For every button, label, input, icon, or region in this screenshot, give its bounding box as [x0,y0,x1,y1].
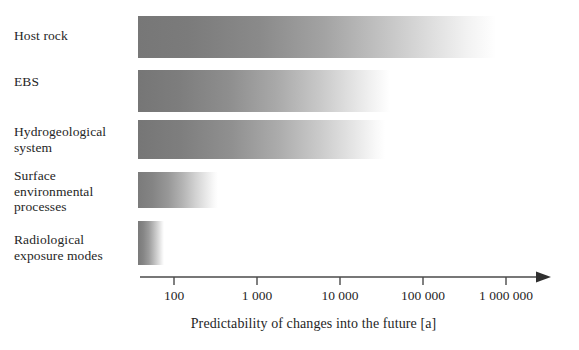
category-label-hydrogeological-system: Hydrogeologicalsystem [14,124,136,155]
bar-fill-host-rock [138,16,496,58]
bar-hydrogeological-system [138,120,385,159]
bar-fill-radiological-exposure-modes [138,221,164,265]
category-label-radiological-exposure-modes: Radiologicalexposure modes [14,232,136,263]
bar-fill-ebs [138,70,390,112]
predictability-bar-chart: Host rock EBS Hydrogeologicalsystem Surf… [0,0,579,350]
axis-title-container: Predictability of changes into the futur… [0,316,579,332]
category-label-surface-environmental-processes: Surfaceenvironmentalprocesses [14,168,136,215]
axis-tick-label-100000: 100 000 [401,288,445,303]
axis-title: Predictability of changes into the futur… [191,316,437,332]
bar-ebs [138,70,390,112]
axis-tick-label-1000000: 1 000 000 [479,288,533,303]
category-label-ebs: EBS [14,74,136,90]
bar-surface-environmental-processes [138,172,218,208]
axis-tick-label-100: 100 [164,288,184,303]
bar-host-rock [138,16,496,58]
axis-tick-label-10000: 10 000 [321,288,358,303]
bar-radiological-exposure-modes [138,221,164,265]
axis-tick-label-1000: 1 000 [242,288,272,303]
bar-fill-surface-environmental-processes [138,172,218,208]
category-label-host-rock: Host rock [14,28,136,44]
arrow-right-icon [536,272,551,283]
bar-fill-hydrogeological-system [138,120,385,159]
